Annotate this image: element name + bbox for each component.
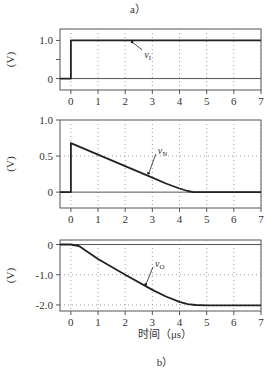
caption-b: b） [157,356,174,368]
x-tick-label: 0 [68,95,74,107]
x-tick-label: 4 [177,316,183,328]
y-tick-label: -1.0 [36,269,54,281]
x-tick-label: 5 [204,213,210,225]
x-tick-label: 0 [68,213,74,225]
x-tick-label: 3 [150,95,156,107]
y-tick-label: 1.0 [39,34,53,46]
x-tick-label: 5 [204,95,210,107]
x-tick-label: 6 [231,213,237,225]
plot-frame [60,120,261,208]
curve-vI [60,40,261,78]
arrow-head [147,172,150,175]
x-tick-label: 2 [122,95,128,107]
panel-2: 1.00.5001234567(V)vN [4,114,264,225]
x-tick-label: 3 [150,213,156,225]
curve-label-vO: vO [155,258,165,271]
x-tick-label: 5 [204,316,210,328]
plot-frame [60,240,261,311]
y-axis-label: (V) [4,52,17,68]
y-axis-label: (V) [4,268,17,284]
arrow-head [144,283,147,286]
y-tick-label: 0 [48,239,54,251]
x-tick-label: 1 [95,213,101,225]
y-tick-label: 0.5 [39,150,53,162]
chart-figure: a） 1.0001234567(V)vI1.00.5001234567(V)vN… [0,0,276,375]
x-tick-label: 4 [177,213,183,225]
panel-1: 1.0001234567(V)vI [4,29,264,107]
x-tick-label: 7 [258,316,264,328]
y-tick-label: -2.0 [36,299,54,311]
curve-label-vN: vN [158,145,168,158]
caption-a: a） [130,3,146,15]
plot-frame [60,29,261,90]
x-tick-label: 0 [68,316,74,328]
x-tick-label: 6 [231,316,237,328]
x-tick-label: 7 [258,95,264,107]
label-arrow [133,42,143,49]
y-tick-label: 0 [48,186,54,198]
x-tick-label: 1 [95,95,101,107]
x-axis-label: 时间（μs） [138,328,192,340]
curve-label-vI: vI [144,49,151,62]
x-tick-label: 3 [150,316,156,328]
label-arrow [146,267,153,284]
y-tick-label: 0 [48,73,54,85]
x-tick-label: 2 [122,316,128,328]
x-tick-label: 6 [231,95,237,107]
x-tick-label: 4 [177,95,183,107]
y-axis-label: (V) [4,156,17,172]
x-tick-label: 1 [95,316,101,328]
panel-3: 0-1.0-2.001234567(V)vO [4,239,264,328]
x-tick-label: 7 [258,213,264,225]
x-tick-label: 2 [122,213,128,225]
arrow-head [131,41,134,44]
y-tick-label: 1.0 [39,114,53,126]
